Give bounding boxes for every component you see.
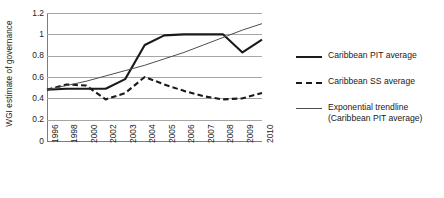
x-tick-label-text: 2009 <box>246 124 254 143</box>
legend-swatch <box>296 103 322 115</box>
legend-swatch <box>296 77 322 89</box>
y-tick-label: 0.4 <box>18 94 44 102</box>
x-tick-label-text: 1996 <box>51 124 59 143</box>
series-lines <box>47 13 262 141</box>
legend-item[interactable]: Caribbean PIT average <box>296 50 444 63</box>
x-tick-label-text: 1998 <box>70 124 78 143</box>
legend-swatch-line <box>296 108 322 109</box>
legend-item-label: Caribbean PIT average <box>328 50 417 61</box>
x-tick-label-text: 2003 <box>129 124 137 143</box>
y-tick-label: 0 <box>18 137 44 145</box>
x-tick-label-text: 2000 <box>90 124 98 143</box>
x-tick-label-text: 2006 <box>187 124 195 143</box>
chart-legend: Caribbean PIT averageCaribbean SS averag… <box>296 50 444 136</box>
plot-area <box>47 13 262 141</box>
legend-item[interactable]: Caribbean SS average <box>296 76 444 89</box>
y-tick-label: 0.2 <box>18 115 44 123</box>
legend-swatch <box>296 51 322 63</box>
y-tick-label: 1.2 <box>18 9 44 17</box>
x-tick-label-text: 2002 <box>109 124 117 143</box>
x-tick-label-text: 2005 <box>168 124 176 143</box>
legend-item-label: Exponential trendline (Caribbean PIT ave… <box>328 102 422 123</box>
x-tick-label-text: 2007 <box>207 124 215 143</box>
y-tick-label: 1 <box>18 30 44 38</box>
x-tick-label-text: 2010 <box>266 124 274 143</box>
y-axis-title-label: WGI estimate of governance <box>5 20 14 126</box>
legend-item[interactable]: Exponential trendline (Caribbean PIT ave… <box>296 102 444 123</box>
legend-item-label: Caribbean SS average <box>328 76 415 87</box>
legend-swatch-line <box>296 82 322 84</box>
x-axis-tick-labels: 1996199820002002200320042005200620072008… <box>47 143 262 198</box>
y-axis-tick-labels: 00.20.40.60.811.2 <box>18 0 44 146</box>
series-line <box>47 24 262 90</box>
x-tick-label-text: 2004 <box>148 124 156 143</box>
y-tick-label: 0.6 <box>18 73 44 81</box>
legend-swatch-line <box>296 56 322 58</box>
y-tick-label: 0.8 <box>18 51 44 59</box>
chart-figure: WGI estimate of governance 00.20.40.60.8… <box>0 0 444 198</box>
y-axis-title: WGI estimate of governance <box>0 0 18 146</box>
x-tick-label-text: 2008 <box>226 124 234 143</box>
